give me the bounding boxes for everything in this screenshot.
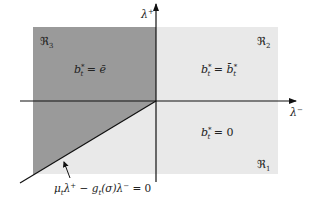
- boundary-equation-label: μtλ+ − gt(σ)λ− = 0: [54, 182, 151, 197]
- region-r3-equation: b*t = ē: [74, 63, 107, 78]
- region-r2-equation: b*t = b̄*t: [201, 63, 238, 78]
- region-r1-equation: b*t = 0: [201, 126, 234, 141]
- region-diagram: λ+ λ− ℜ3 ℜ2 ℜ1 b*t = ē b*t = b̄*t b*t = …: [0, 0, 318, 209]
- x-axis-label: λ−: [289, 106, 303, 119]
- y-axis-label: λ+: [140, 8, 154, 21]
